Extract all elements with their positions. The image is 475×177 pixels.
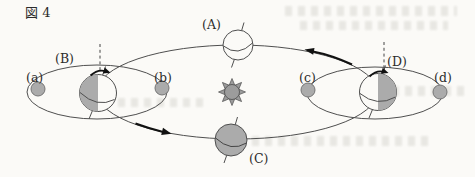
moon-d [433,85,447,99]
label-moon-c: (c) [299,70,316,85]
earth-a-axis-bottom [232,59,235,68]
earth-d-axis-bottom [369,110,373,119]
figure-title: 図 4 [25,5,50,20]
label-earth-b: (B) [55,51,74,66]
label-earth-d: (D) [387,54,407,69]
label-earth-a: (A) [202,17,221,32]
earth-b-shaded-half [80,75,99,112]
label-moon-b: (b) [154,70,172,85]
earth-a-axis-top [242,23,245,32]
sun-icon [219,79,246,106]
label-moon-d: (d) [434,70,452,85]
earth-b [80,67,117,120]
label-moon-a: (a) [26,70,43,85]
earth-b-axis-bottom [89,111,93,120]
orbit-direction-arrow-top [305,48,353,65]
orbit-direction-arrow-bottom [136,124,172,135]
label-earth-c: (C) [249,151,268,166]
figure-page: 図 4 (A) (B) (C) (D) (a) (b) (c) (d) [0,0,475,177]
earth-a [223,23,253,68]
orbital-diagram: 図 4 (A) (B) (C) (D) (a) (b) (c) (d) [0,0,475,177]
earth-d-shaded-half [378,74,397,111]
moon-c [301,83,315,97]
earth-c [215,117,247,163]
